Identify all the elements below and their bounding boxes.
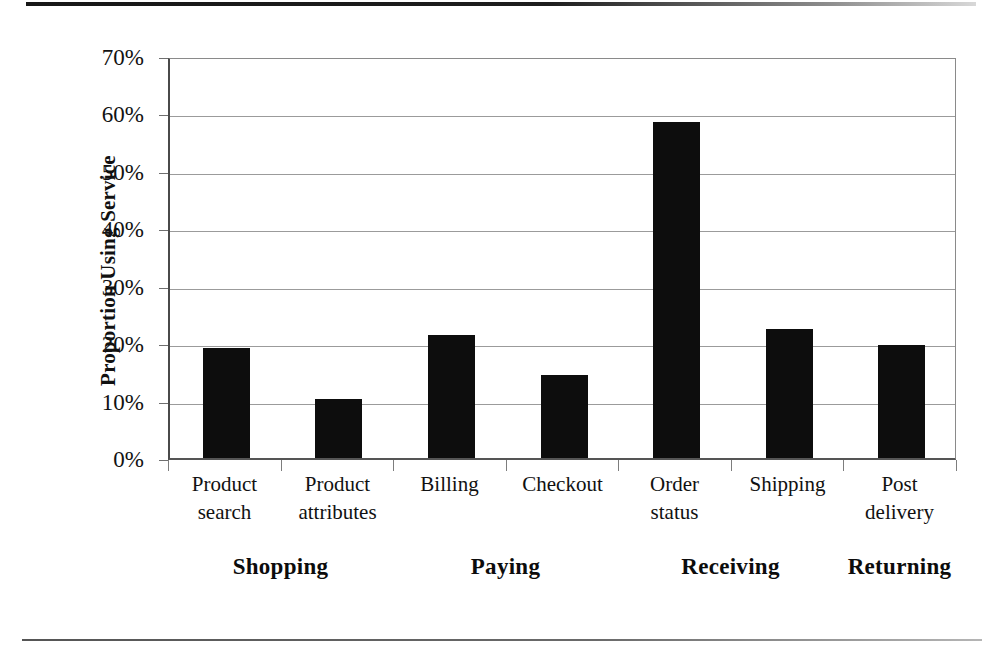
bar — [653, 122, 700, 458]
bar-chart: Proportion Using Service 0%10%20%30%40%5… — [0, 0, 1008, 653]
category-label-line-1: Product — [192, 472, 257, 496]
gridline — [170, 174, 955, 175]
x-axis-group-label: Paying — [393, 554, 618, 580]
y-axis-tick-label: 0% — [48, 448, 144, 471]
category-label-line-1: Order — [650, 472, 699, 496]
y-axis-tick-label: 60% — [48, 103, 144, 126]
x-axis-category-label: Billing — [393, 470, 506, 498]
bar — [428, 335, 475, 458]
y-axis-tick-label: 40% — [48, 218, 144, 241]
category-label-line-1: Shipping — [750, 472, 826, 496]
bar — [878, 345, 925, 458]
x-axis-group-label: Receiving — [618, 554, 843, 580]
category-label-line-2: attributes — [281, 498, 394, 526]
category-label-line-2: delivery — [843, 498, 956, 526]
x-axis-group-label: Shopping — [168, 554, 393, 580]
y-axis-tick-label: 70% — [48, 46, 144, 69]
category-label-line-1: Product — [305, 472, 370, 496]
x-axis-category-label: Checkout — [506, 470, 619, 498]
y-axis-tick-mark — [159, 230, 168, 231]
plot-area — [168, 58, 956, 460]
y-axis-tick-label: 10% — [48, 391, 144, 414]
x-axis-category-label: Shipping — [731, 470, 844, 498]
y-axis-tick-label: 50% — [48, 161, 144, 184]
gridline — [170, 346, 955, 347]
bar — [315, 399, 362, 458]
bar — [203, 348, 250, 458]
y-axis-tick-mark — [159, 288, 168, 289]
y-axis-tick-mark — [159, 58, 168, 59]
x-axis-category-label: Postdelivery — [843, 470, 956, 527]
x-axis-group-label: Returning — [843, 554, 956, 580]
x-axis-category-label: Productattributes — [281, 470, 394, 527]
category-label-line-1: Checkout — [522, 472, 602, 496]
x-axis-category-label: Orderstatus — [618, 470, 731, 527]
gridline — [170, 289, 955, 290]
y-axis-tick-mark — [159, 173, 168, 174]
gridline — [170, 231, 955, 232]
x-axis-tick-mark — [956, 460, 957, 471]
y-axis-tick-mark — [159, 460, 168, 461]
y-axis-tick-label: 30% — [48, 276, 144, 299]
y-axis-tick-mark — [159, 403, 168, 404]
bar — [766, 329, 813, 458]
category-label-line-2: status — [618, 498, 731, 526]
bar — [541, 375, 588, 458]
y-axis-tick-label: 20% — [48, 333, 144, 356]
y-axis-tick-mark — [159, 115, 168, 116]
x-axis-category-label: Productsearch — [168, 470, 281, 527]
gridline — [170, 116, 955, 117]
category-label-line-2: search — [168, 498, 281, 526]
y-axis-tick-mark — [159, 345, 168, 346]
category-label-line-1: Post — [881, 472, 917, 496]
category-label-line-1: Billing — [420, 472, 478, 496]
